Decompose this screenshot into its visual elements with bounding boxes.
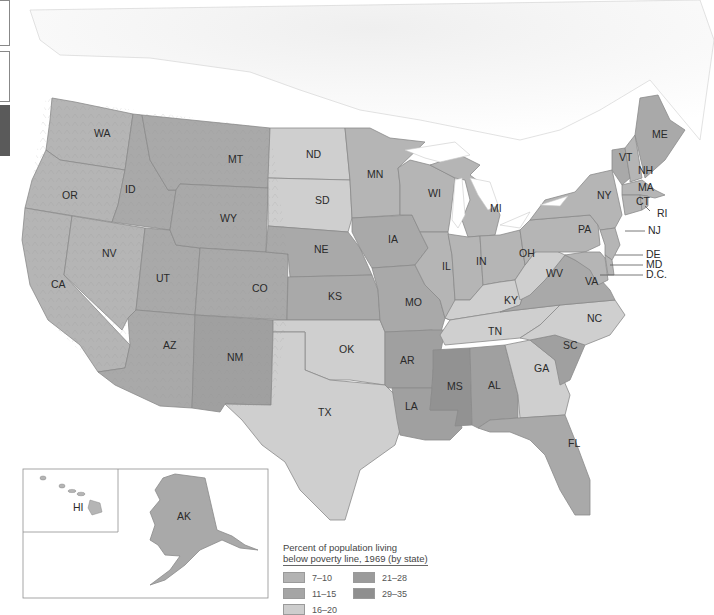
label-CO: CO [252,282,268,294]
legend-title: Percent of population living below pover… [283,542,463,566]
inset-hi-ak: HI AK [23,469,268,598]
label-MS: MS [447,380,463,392]
label-IN: IN [476,255,487,267]
label-WV: WV [546,267,563,279]
label-OR: OR [62,189,78,201]
legend-swatch-7-10 [283,572,305,583]
label-NY: NY [597,189,612,201]
label-NH: NH [638,164,653,176]
legend-title-line2: below poverty line, 1969 (by state) [283,553,428,566]
label-AL: AL [488,379,501,391]
legend-item: 16–20 [283,604,353,615]
legend-label: 11–15 [312,589,336,599]
label-MT: MT [228,153,244,165]
label-WY: WY [220,212,237,224]
legend-item: 21–28 [353,572,433,583]
label-ND: ND [306,148,322,160]
inset-frame [23,469,268,598]
label-FL: FL [568,437,580,449]
label-SC: SC [563,339,578,351]
legend-label: 21–28 [382,573,407,583]
label-VA: VA [585,275,598,287]
label-IA: IA [388,233,398,245]
legend-swatch-16-20 [283,604,305,615]
label-MA: MA [638,181,654,193]
label-TX: TX [318,406,331,418]
label-IL: IL [442,260,451,272]
label-VT: VT [619,151,633,163]
legend-swatch-21-28 [353,572,375,583]
label-WA: WA [94,127,111,139]
legend-label: 16–20 [312,605,337,615]
label-RI: RI [657,207,668,219]
label-OK: OK [339,343,354,355]
label-NE: NE [314,243,329,255]
label-UT: UT [156,272,171,284]
label-CA: CA [51,278,66,290]
legend-label: 29–35 [382,589,407,599]
label-AZ: AZ [163,339,177,351]
label-NM: NM [227,351,243,363]
legend: Percent of population living below pover… [283,542,463,615]
label-MN: MN [367,168,383,180]
label-NV: NV [102,247,117,259]
label-MO: MO [405,296,422,308]
label-KS: KS [328,290,342,302]
legend-label: 7–10 [312,573,332,583]
label-AK: AK [177,510,191,522]
legend-item: 29–35 [353,588,433,599]
legend-title-line1: Percent of population living [283,542,463,553]
label-NC: NC [587,312,603,324]
legend-items: 7–10 21–28 11–15 29–35 16–20 [283,572,463,615]
label-LA: LA [405,400,418,412]
legend-swatch-29-35 [353,588,375,599]
label-NJ: NJ [648,224,661,236]
label-SD: SD [315,194,330,206]
label-TN: TN [488,325,502,337]
label-CT: CT [636,195,651,207]
label-GA: GA [534,362,549,374]
label-OH: OH [519,247,535,259]
label-ID: ID [125,183,136,195]
label-DC: D.C. [646,268,667,280]
label-WI: WI [428,187,441,199]
label-KY: KY [504,294,518,306]
relief-texture [22,98,288,408]
legend-item: 11–15 [283,588,353,599]
legend-swatch-11-15 [283,588,305,599]
label-AR: AR [400,354,415,366]
label-HI: HI [73,501,84,513]
label-PA: PA [578,223,591,235]
label-MI: MI [490,202,502,214]
label-ME: ME [652,128,668,140]
legend-item: 7–10 [283,572,353,583]
state-FL[interactable] [478,415,590,515]
